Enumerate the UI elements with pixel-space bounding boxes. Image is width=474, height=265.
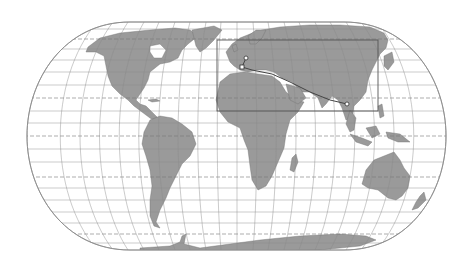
- route-end-marker: [345, 102, 349, 106]
- route-start-marker: [244, 56, 248, 60]
- world-map: [0, 0, 474, 265]
- route-waypoint-marker: [240, 65, 244, 69]
